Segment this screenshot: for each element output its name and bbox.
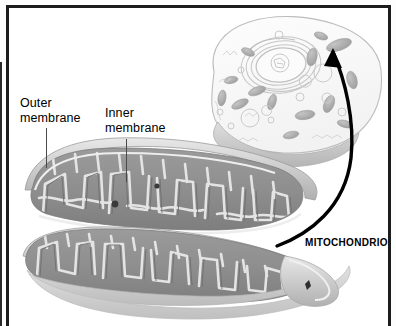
outer-membrane-label: Outer membrane xyxy=(20,96,81,126)
frame-top-border xyxy=(6,5,391,8)
outer-membrane-leader-icon xyxy=(46,128,47,168)
frame-left-border xyxy=(6,5,9,326)
frame-right-border xyxy=(388,5,391,326)
callout-arrow xyxy=(9,8,388,326)
page-gutter-line xyxy=(0,62,2,326)
inner-membrane-leader-icon xyxy=(126,139,127,182)
figure-canvas: Outer membrane Inner membrane MITOCHONDR… xyxy=(9,8,388,326)
curved-arrow-icon xyxy=(277,48,352,246)
mitochondrion-label: MITOCHONDRION xyxy=(305,235,388,250)
mitochondrion-figure: Outer membrane Inner membrane MITOCHONDR… xyxy=(0,0,396,326)
inner-membrane-label: Inner membrane xyxy=(105,106,166,136)
